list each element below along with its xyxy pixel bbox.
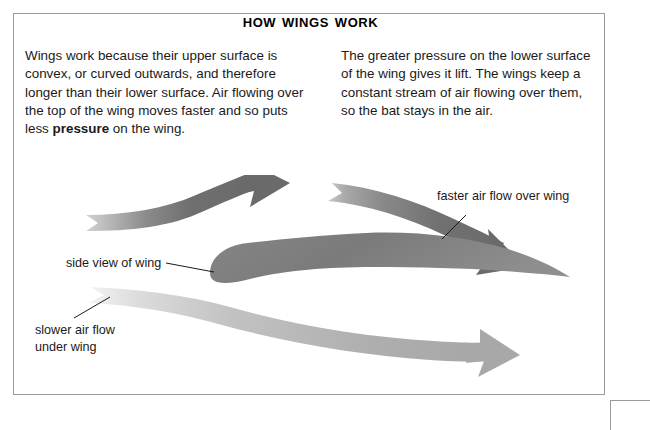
arrowhead-lower [466, 329, 520, 377]
diagram-svg [14, 175, 604, 393]
leader-line-slower-air-flow [74, 297, 110, 318]
wing-airflow-diagram: side view of wing faster air flow over w… [14, 175, 604, 393]
label-slower-air-flow-under-wing: slower air flowunder wing [35, 322, 165, 355]
left-column-text-part2: on the wing. [109, 121, 185, 136]
label-side-view-of-wing: side view of wing [66, 255, 161, 272]
page-frame-secondary [610, 400, 650, 430]
arrow-upper-left-airflow [86, 175, 290, 231]
label-slower-air-flow-line2: under wing [35, 340, 97, 354]
label-slower-air-flow-line1: slower air flow [35, 323, 115, 337]
arrowhead-upper-left [236, 175, 290, 207]
wing-airfoil-shape [210, 233, 570, 283]
body-text-left-column: Wings work because their upper surface i… [25, 47, 315, 138]
body-text-right-column: The greater pressure on the lower surfac… [341, 47, 591, 120]
page-title: How wings work [0, 10, 621, 32]
leader-line-side-view-of-wing [166, 263, 214, 272]
label-faster-air-flow-over-wing: faster air flow over wing [437, 188, 569, 205]
left-column-emphasis-pressure: pressure [53, 121, 110, 136]
